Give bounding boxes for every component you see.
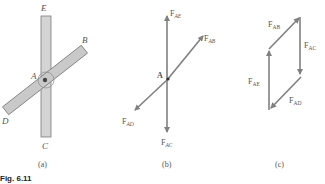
label-c: C	[42, 141, 49, 151]
panel-c-label: (c)	[275, 160, 284, 169]
label-a-b: A	[157, 71, 163, 80]
panel-c: FAB FAC FAE FAD (c)	[248, 17, 316, 169]
panel-b: A FAE FAB FAD FAC (b)	[122, 9, 216, 169]
pin-a	[43, 78, 47, 82]
label-f-ac: FAC	[161, 138, 173, 148]
label-a: A	[30, 71, 37, 81]
polygon-f-ab	[269, 18, 299, 49]
label-f-ad: FAD	[122, 117, 134, 127]
label-d: D	[1, 116, 9, 126]
panel-a-label: (a)	[38, 160, 47, 169]
panel-b-label: (b)	[162, 160, 172, 169]
label-c-f-ac: FAC	[304, 41, 316, 51]
label-b: B	[82, 35, 88, 45]
arrow-f-ad	[135, 80, 167, 110]
figure-caption: Fig. 6.11	[0, 174, 32, 183]
label-f-ab: FAB	[204, 34, 216, 44]
label-c-f-ae: FAE	[248, 77, 260, 87]
label-e: E	[40, 3, 47, 13]
label-c-f-ab: FAB	[268, 20, 280, 30]
label-c-f-ad: FAD	[289, 96, 301, 106]
label-f-ae: FAE	[170, 9, 182, 19]
figure-canvas: E B A D C (a) A FAE FAB FAD FAC (b) FAB …	[0, 0, 325, 184]
arrow-f-ab	[167, 36, 203, 80]
point-a	[166, 77, 169, 80]
panel-a: E B A D C (a)	[1, 3, 88, 169]
